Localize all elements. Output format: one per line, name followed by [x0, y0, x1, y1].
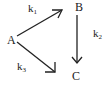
edge-b-to-c	[72, 15, 82, 63]
rate-label-k2: k2	[93, 27, 103, 41]
rate-label-k1: k1	[28, 2, 38, 16]
node-b: B	[75, 0, 83, 14]
reaction-diagram: A B C k1 k2 k3	[0, 0, 111, 85]
arrow-line-icon	[17, 10, 62, 36]
diagram-svg: A B C k1 k2 k3	[0, 0, 111, 85]
node-a: A	[7, 33, 16, 47]
edge-a-to-b	[17, 10, 62, 36]
node-c: C	[72, 69, 80, 83]
rate-label-k3: k3	[17, 60, 27, 74]
